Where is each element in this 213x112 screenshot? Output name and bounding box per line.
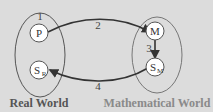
svg-text:P: P (36, 27, 42, 39)
step-label-4: 4 (95, 80, 101, 92)
modeling-cycle-diagram: P S R M S M 1 2 3 4 Real World Mathemati… (0, 0, 213, 112)
step-label-2: 2 (95, 19, 101, 31)
svg-text:S: S (150, 61, 156, 73)
svg-text:M: M (157, 67, 164, 75)
node-sm: S M (146, 58, 164, 76)
node-sr: S R (30, 61, 48, 79)
svg-text:S: S (34, 64, 40, 76)
math-world-label: Mathematical World (104, 96, 211, 110)
node-m: M (146, 22, 164, 40)
step-label-1: 1 (37, 10, 43, 22)
step-label-3: 3 (146, 42, 152, 54)
real-world-label: Real World (10, 96, 69, 110)
svg-text:M: M (150, 25, 160, 37)
node-p: P (30, 24, 48, 42)
svg-text:R: R (42, 70, 47, 78)
